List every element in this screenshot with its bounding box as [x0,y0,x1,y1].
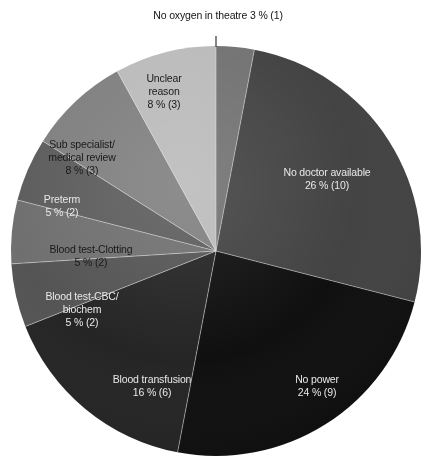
slice-label-name: No oxygen in theatre [153,9,247,21]
pie-chart-figure: No oxygen in theatre 3 % (1) No doctor a… [0,0,437,472]
slice-label-no-oxygen-in-theatre: No oxygen in theatre 3 % (1) [118,9,318,22]
slice-label-value: 3 % (1) [250,9,283,21]
pie-sheen-overlay [11,46,421,456]
pie-chart-canvas [0,0,437,472]
